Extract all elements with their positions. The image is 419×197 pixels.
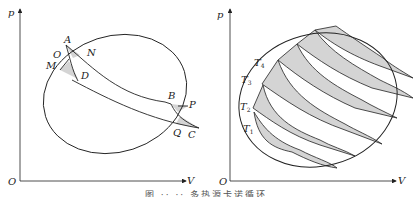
left-x-axis-label: V (187, 175, 196, 186)
isotherm-label-t2: T2 (240, 101, 251, 113)
carnot-strips (253, 26, 413, 168)
point-label-p: P (188, 99, 196, 110)
right-diagram: p V O T4 T3 T2 T1 (217, 9, 413, 187)
left-cycle-ellipse (28, 16, 203, 171)
point-label-b: B (167, 90, 175, 101)
isotherm-label-t3: T3 (241, 74, 252, 86)
left-y-axis-label: p (8, 7, 15, 18)
right-x-axis-label: V (398, 175, 407, 186)
point-label-a: A (63, 34, 71, 45)
point-label-n: N (86, 47, 97, 58)
figure-caption: 图 ·· ·· 多热源卡诺循环 (145, 188, 267, 197)
point-label-o: O (53, 49, 61, 60)
point-label-c: C (188, 129, 196, 140)
isotherm-label-t4: T4 (254, 57, 265, 69)
isotherm-label-t1: T1 (243, 123, 254, 135)
point-label-m: M (45, 60, 57, 71)
point-label-q: Q (173, 127, 181, 138)
right-y-axis-label: p (217, 9, 224, 20)
right-origin-label: O (219, 176, 227, 187)
point-label-d: D (80, 70, 89, 81)
left-origin-label: O (8, 176, 16, 187)
figure-canvas: p V O A N O M D B P Q C p V O T4 T3 T2 T… (0, 0, 419, 197)
left-diagram: p V O A N O M D B P Q C (8, 7, 202, 187)
